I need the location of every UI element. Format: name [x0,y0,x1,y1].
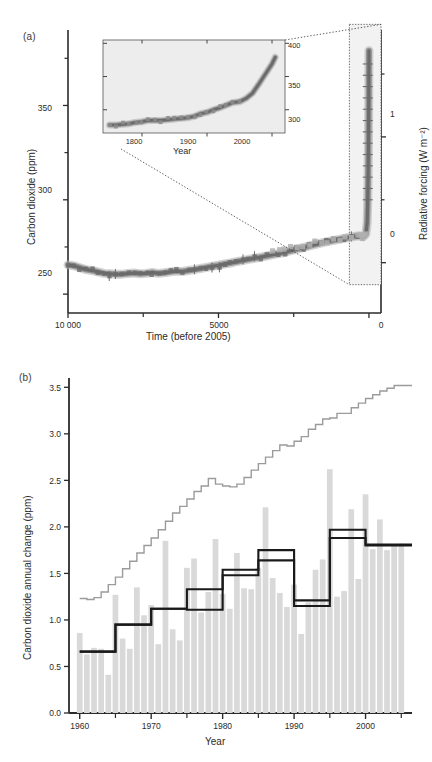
bar-1964 [105,675,111,713]
bar-1977 [198,613,204,714]
panel-a-inset-xtick-2000: 2000 [227,137,257,146]
panel-b-ytick-2.0: 2.0 [49,522,61,532]
panel-b-ytick-3.0: 3.0 [49,429,61,439]
panel-a-right-ytick-1: 1 [390,109,395,119]
panel-a-xtick-5000: 5000 [199,320,239,330]
panel-a-tag: (a) [23,31,36,42]
bar-1965 [113,595,119,713]
panel-b-tag: (b) [19,372,32,383]
panel-a-ylabel-right: Radiative forcing (W m⁻²) [418,127,429,240]
panel-b-xtick-1980: 1980 [213,721,232,731]
bar-2004 [391,546,397,714]
bar-2005 [398,544,404,713]
bar-1993 [313,570,319,713]
bar-1985 [256,568,262,713]
panel-b-xtick-1960: 1960 [70,721,89,731]
bar-1998 [348,509,354,713]
decadal-mean-step-black-upper [80,530,412,652]
panel-b-xlabel: Year [205,736,225,747]
decadal-mean-step-black-lower [80,538,412,652]
bar-1979 [213,539,219,713]
panel-a-inset-xlabel: Year [173,146,191,156]
bar-1970 [148,605,154,713]
panel-b-ylabel: Carbon dioxide annual change (ppm) [22,495,33,660]
bar-1961 [84,654,90,713]
bar-2000 [363,494,369,713]
panel-b-xtick-1970: 1970 [142,721,161,731]
bar-1968 [134,587,140,713]
panel-b-ytick-3.5: 3.5 [49,383,61,393]
bar-1984 [248,589,254,713]
bar-1962 [91,648,97,713]
bar-1986 [263,507,269,713]
bar-1960 [77,633,83,713]
panel-a-xtick-0: 0 [361,320,401,330]
bar-1969 [141,615,147,713]
panel-a-ytick-250: 250 [24,268,52,278]
bar-1989 [284,607,290,713]
bar-1975 [184,568,190,713]
panel-a-inset-ytick-400: 400 [288,41,301,50]
panel-a-ylabel-left: Carbon dioxide (ppm) [26,149,37,245]
bar-1974 [177,640,183,713]
panel-b-ytick-1.0: 1.0 [49,615,61,625]
bar-1967 [127,649,133,713]
panel-b-ytick-0.5: 0.5 [49,662,61,672]
bar-1982 [234,553,240,713]
bar-1992 [306,602,312,713]
panel-a-inset-ytick-350: 350 [288,81,301,90]
panel-a-ytick-350: 350 [24,103,52,113]
panel-a-inset-xtick-1900: 1900 [173,137,203,146]
panel-a-ytick-300: 300 [24,185,52,195]
bar-1973 [170,629,176,713]
bar-1995 [327,469,333,713]
panel-a-right-ytick-0: 0 [390,229,395,239]
bar-1988 [277,593,283,713]
bar-2002 [377,519,383,713]
panel-a-xlabel: Time (before 2005) [146,331,231,342]
bar-2001 [370,549,376,713]
panel-b-xtick-2000: 2000 [356,721,375,731]
figure-container: (a) Carbon dioxide (ppm) Radiative forci… [0,0,432,762]
bar-1963 [98,649,104,713]
bar-2003 [384,550,390,713]
smoothed-gray-staircase [80,385,412,599]
panel-a-plot [0,0,432,355]
bar-1999 [356,579,362,713]
bar-1976 [191,559,197,713]
bar-1990 [291,585,297,713]
bar-1972 [163,541,169,713]
panel-a-inset-xtick-1800: 1800 [119,137,149,146]
bar-1997 [341,591,347,713]
bar-1971 [155,644,161,713]
bar-1978 [205,592,211,713]
bar-1983 [241,588,247,713]
bar-1966 [120,639,126,713]
bar-1987 [270,578,276,713]
bar-1994 [320,559,326,713]
panel-b-plot: 0.00.51.01.52.02.53.03.51960197019801990… [0,0,432,762]
bar-1991 [298,634,304,713]
panel-b-ytick-1.5: 1.5 [49,569,61,579]
panel-b-ytick-0.0: 0.0 [49,708,61,718]
panel-a-xtick-10000: 10 000 [43,320,93,330]
bar-1981 [227,609,233,713]
bar-1996 [334,597,340,713]
bar-1980 [220,594,226,713]
panel-b-ytick-2.5: 2.5 [49,476,61,486]
panel-b-xtick-1990: 1990 [285,721,304,731]
panel-a-inset-ytick-300: 300 [288,115,301,124]
